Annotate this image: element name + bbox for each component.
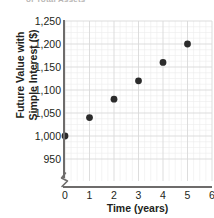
data-point xyxy=(135,77,142,84)
scatter-chart-figure: of Total Assets 9501,0001,0501,1001,1501… xyxy=(0,0,214,218)
y-axis-title: Future Value with Simple Interest ($) xyxy=(14,0,40,150)
data-point xyxy=(86,114,93,121)
data-point xyxy=(184,41,191,48)
x-tick-label: 1 xyxy=(80,190,100,201)
data-point xyxy=(111,96,118,103)
y-tick-label: 950 xyxy=(1,154,61,165)
data-point xyxy=(160,59,167,66)
x-axis-title: Time (years) xyxy=(63,202,212,214)
x-tick-label: 0 xyxy=(55,190,75,201)
x-tick-label: 3 xyxy=(129,190,149,201)
x-tick-label: 4 xyxy=(153,190,173,201)
x-tick-label: 2 xyxy=(104,190,124,201)
x-tick-label: 6 xyxy=(202,190,214,201)
y-axis-title-line-1: Future Value with xyxy=(14,0,27,150)
x-axis-line xyxy=(63,186,212,188)
plot-area xyxy=(65,21,212,181)
y-axis-title-line-2: Simple Interest ($) xyxy=(27,0,40,150)
y-axis-line xyxy=(63,20,65,178)
x-tick-label: 5 xyxy=(178,190,198,201)
data-points-layer xyxy=(65,21,212,181)
